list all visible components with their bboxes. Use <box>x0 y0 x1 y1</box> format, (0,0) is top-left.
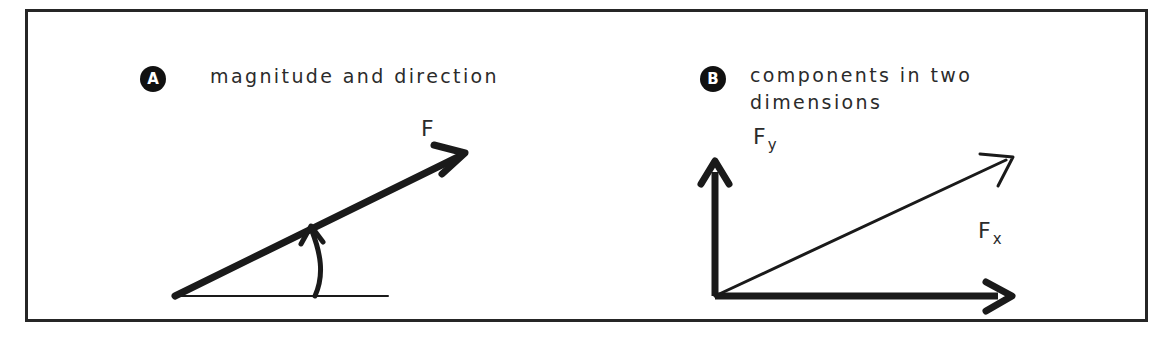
panel-a-diagram <box>28 12 588 325</box>
force-vector-shaft <box>175 157 458 296</box>
figure-frame: A magnitude and direction F B compo <box>25 9 1148 322</box>
panel-b-diagram <box>588 12 1151 325</box>
resultant-vector-shaft <box>715 160 1006 296</box>
panel-b: B components in twodimensions Fy Fx <box>588 12 1151 325</box>
panel-a: A magnitude and direction F <box>28 12 588 325</box>
figure-root: A magnitude and direction F B compo <box>0 0 1173 351</box>
